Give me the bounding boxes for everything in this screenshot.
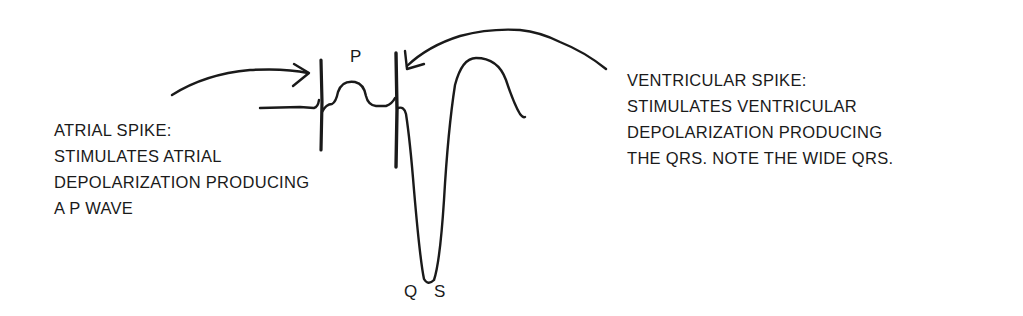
atrial-arrow-shaft — [172, 69, 308, 95]
p-wave-label: P — [350, 47, 361, 67]
ventricular-annotation-line: VENTRICULAR SPIKE: — [627, 67, 893, 93]
atrial-annotation-line: DEPOLARIZATION PRODUCING — [54, 169, 309, 195]
qrs-complex — [398, 58, 525, 283]
ventricular-arrow-shaft — [407, 30, 606, 69]
s-wave-label: S — [434, 282, 445, 302]
atrial-spike — [321, 60, 322, 150]
ventricular-annotation-line: DEPOLARIZATION PRODUCING — [627, 119, 893, 145]
p-wave — [322, 82, 395, 112]
ecg-paced-rhythm-diagram: P Q S ATRIAL SPIKE: STIMULATES ATRIAL DE… — [0, 0, 1023, 316]
atrial-arrow-head-icon — [293, 64, 309, 86]
ventricular-annotation-line: THE QRS. NOTE THE WIDE QRS. — [627, 145, 893, 171]
atrial-annotation-line: A P WAVE — [54, 195, 309, 221]
atrial-spike-annotation: ATRIAL SPIKE: STIMULATES ATRIAL DEPOLARI… — [54, 117, 309, 221]
ventricular-spike — [396, 53, 397, 167]
ecg-baseline — [260, 100, 319, 108]
atrial-annotation-line: ATRIAL SPIKE: — [54, 117, 309, 143]
q-wave-label: Q — [404, 282, 417, 302]
ventricular-spike-annotation: VENTRICULAR SPIKE: STIMULATES VENTRICULA… — [627, 67, 893, 171]
ventricular-annotation-line: STIMULATES VENTRICULAR — [627, 93, 893, 119]
atrial-annotation-line: STIMULATES ATRIAL — [54, 143, 309, 169]
